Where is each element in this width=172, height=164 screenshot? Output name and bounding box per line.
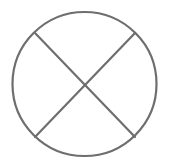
crossed-circle-icon	[0, 0, 172, 164]
diagram-canvas	[0, 0, 172, 164]
